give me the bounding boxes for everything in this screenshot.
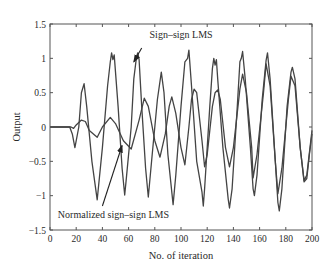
y-tick-label: −0.5 bbox=[29, 157, 46, 167]
x-tick-label: 0 bbox=[48, 234, 53, 244]
x-tick-label: 80 bbox=[150, 234, 160, 244]
series-layer bbox=[50, 50, 312, 211]
x-tick-label: 40 bbox=[98, 234, 108, 244]
y-axis-label: Output bbox=[11, 112, 22, 141]
x-tick-label: 140 bbox=[226, 234, 241, 244]
x-tick-label: 180 bbox=[279, 234, 294, 244]
x-tick-label: 160 bbox=[252, 234, 267, 244]
annotation-arrow bbox=[102, 146, 122, 206]
y-tick-label: 0.5 bbox=[34, 88, 46, 98]
y-tick-label: −1.5 bbox=[29, 226, 46, 236]
x-tick-label: 120 bbox=[200, 234, 215, 244]
annotation-label: Normalized sign–sign LMS bbox=[58, 209, 169, 220]
y-tick-label: 0 bbox=[41, 123, 46, 133]
y-tick-label: −1 bbox=[36, 191, 46, 201]
y-tick-label: 1 bbox=[41, 54, 46, 64]
x-tick-label: 60 bbox=[124, 234, 134, 244]
x-tick-label: 100 bbox=[174, 234, 189, 244]
line-chart: 020406080100120140160180200−1.5−1−0.500.… bbox=[0, 0, 330, 270]
x-axis-label: No. of iteration bbox=[149, 250, 214, 261]
x-tick-label: 200 bbox=[305, 234, 320, 244]
annotation-arrow bbox=[134, 48, 142, 62]
chart: 020406080100120140160180200−1.5−1−0.500.… bbox=[0, 0, 330, 270]
annotation-label: Sign–sign LMS bbox=[150, 29, 213, 40]
y-tick-label: 1.5 bbox=[34, 20, 46, 30]
x-tick-label: 20 bbox=[71, 234, 81, 244]
